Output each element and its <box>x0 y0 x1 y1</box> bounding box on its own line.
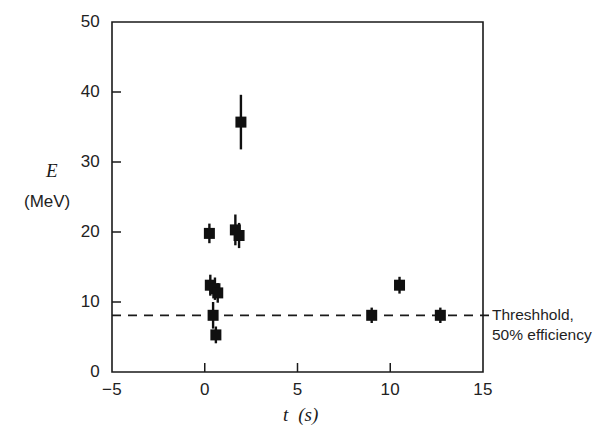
data-points-group <box>204 95 446 343</box>
data-point <box>208 302 219 329</box>
y-axis-ticks <box>112 92 121 302</box>
threshold-annotation-line2: 50% efficiency <box>492 325 592 345</box>
y-tick-label-50: 50 <box>54 12 100 32</box>
data-point <box>394 277 405 294</box>
x-axis-title-units: (s) <box>298 404 318 425</box>
x-axis-title-symbol: t <box>283 404 288 425</box>
x-axis-ticks <box>205 363 391 372</box>
data-point <box>366 308 377 323</box>
x-tick-label-10: 10 <box>381 380 400 400</box>
y-axis-title: E <box>46 160 58 182</box>
data-point <box>204 224 215 244</box>
y-axis-units: (MeV) <box>24 192 70 212</box>
threshold-annotation-line1: Threshhold, <box>492 305 592 325</box>
y-tick-label-20: 20 <box>54 222 100 242</box>
y-tick-label-10: 10 <box>54 292 100 312</box>
data-point <box>235 95 246 150</box>
x-tick-label-0: 0 <box>200 380 210 400</box>
threshold-annotation: Threshhold, 50% efficiency <box>492 305 592 346</box>
x-tick-label--5: −5 <box>102 380 122 400</box>
x-tick-label-5: 5 <box>293 380 303 400</box>
y-tick-label-30: 30 <box>54 152 100 172</box>
x-tick-label-15: 15 <box>473 380 492 400</box>
x-axis-title: t(s) <box>283 404 318 426</box>
data-point <box>210 327 221 344</box>
y-tick-label-0: 0 <box>54 362 100 382</box>
y-tick-label-40: 40 <box>54 82 100 102</box>
figure-container: 01020304050 −5051015 E (MeV) t(s) Thresh… <box>0 0 615 442</box>
axis-frame <box>112 22 483 372</box>
data-point <box>435 308 446 323</box>
